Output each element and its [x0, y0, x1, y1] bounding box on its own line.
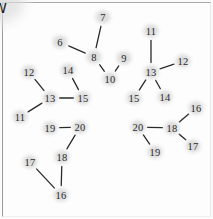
graph-node[interactable]: 20 [127, 117, 149, 137]
graph-edge [37, 169, 55, 188]
graph-node[interactable]: 16 [185, 98, 207, 118]
graph-node-label: 16 [190, 103, 201, 114]
graph-node[interactable]: 14 [57, 60, 79, 80]
graph-node[interactable]: 8 [83, 47, 105, 67]
graph-node[interactable]: 17 [19, 152, 41, 172]
graph-node[interactable]: 13 [39, 88, 61, 108]
graph-node[interactable]: 12 [172, 51, 194, 71]
graph-node-label: 19 [44, 123, 55, 134]
graph-edge [28, 103, 42, 112]
graph-node[interactable]: 13 [140, 62, 162, 82]
graph-edge [67, 135, 75, 149]
graph-node-label: 9 [121, 53, 127, 64]
graph-node-label: 12 [177, 56, 188, 67]
graph-node[interactable]: 15 [123, 88, 145, 108]
graph-node[interactable]: 11 [9, 107, 31, 127]
graph-node[interactable]: 18 [161, 118, 183, 138]
graph-node-label: 20 [74, 122, 85, 133]
graph-node-label: 17 [187, 141, 198, 152]
graph-edge [139, 80, 146, 90]
graph-node-label: 16 [55, 190, 66, 201]
graph-edge [69, 46, 86, 53]
graph-node[interactable]: 7 [92, 7, 114, 27]
graph-node-label: 19 [149, 147, 160, 158]
graph-node[interactable]: 16 [50, 185, 72, 205]
graph-node-label: 7 [100, 12, 106, 23]
graph-node-label: 8 [91, 52, 97, 63]
graph-node[interactable]: 19 [39, 118, 61, 138]
graph-node[interactable]: 20 [69, 117, 91, 137]
graph-node-label: 11 [15, 112, 26, 123]
graph-node-label: 14 [62, 65, 73, 76]
graph-node[interactable]: 6 [49, 32, 71, 52]
graph-edge [96, 26, 101, 47]
graph-node[interactable]: 19 [144, 142, 166, 162]
graph-node-label: 13 [145, 67, 156, 78]
graph-node[interactable]: 14 [154, 87, 176, 107]
graph-node-label: 15 [128, 93, 139, 104]
diagram-canvas: 5 W 678910111213151412141315111920181716… [0, 0, 213, 219]
graph-node[interactable]: 9 [113, 48, 135, 68]
graph-node[interactable]: 12 [18, 62, 40, 82]
edge-layer [0, 0, 213, 219]
graph-node-label: 18 [56, 152, 67, 163]
graph-node[interactable]: 17 [182, 136, 204, 156]
graph-node-label: 17 [24, 157, 35, 168]
graph-node-label: 15 [77, 93, 88, 104]
graph-edge [179, 114, 188, 122]
graph-node-label: 6 [57, 37, 63, 48]
graph-node[interactable]: 18 [51, 147, 73, 167]
graph-edge [61, 167, 62, 186]
graph-node-label: 18 [166, 123, 177, 134]
graph-node-label: 13 [44, 93, 55, 104]
graph-node-label: 11 [146, 26, 157, 37]
center-node-letter: W [0, 0, 7, 16]
graph-node-label: 12 [23, 67, 34, 78]
graph-node[interactable]: 15 [72, 88, 94, 108]
graph-node[interactable]: 10 [99, 69, 121, 89]
graph-node-label: 20 [132, 122, 143, 133]
graph-node-label: 14 [159, 92, 170, 103]
graph-node-label: 10 [104, 74, 115, 85]
graph-node[interactable]: 11 [140, 21, 162, 41]
